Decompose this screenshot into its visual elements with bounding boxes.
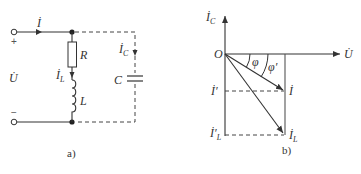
resistor-icon bbox=[68, 42, 77, 67]
label-current-capacitor: İC bbox=[118, 42, 129, 58]
angle-arc-phi bbox=[247, 54, 251, 67]
label-axis-x: U̇ bbox=[344, 47, 354, 61]
label-current-total: İ bbox=[36, 16, 42, 30]
caption-a: a) bbox=[67, 147, 76, 160]
label-current-inductor: İL bbox=[288, 128, 298, 144]
angle-arc-phi-prime bbox=[261, 54, 268, 77]
diagram-canvas: İ + − U̇ R İL L İC C a) İC U̇ O φ φ′ İ İ… bbox=[0, 0, 361, 174]
label-axis-y: İC bbox=[205, 10, 216, 26]
label-inductor: L bbox=[79, 94, 87, 108]
current-arrow-capacitor-icon bbox=[133, 50, 138, 56]
label-plus: + bbox=[11, 36, 17, 47]
circuit-figure-a: İ + − U̇ R İL L İC C a) bbox=[9, 16, 143, 160]
terminal-top bbox=[11, 29, 17, 35]
inductor-icon bbox=[72, 80, 76, 122]
label-current-total-prime: İ′ bbox=[210, 84, 218, 98]
label-current-inductor: İL bbox=[55, 68, 65, 84]
label-voltage: U̇ bbox=[9, 71, 19, 85]
label-origin: O bbox=[214, 47, 223, 61]
terminal-bottom bbox=[11, 119, 17, 125]
caption-b: b) bbox=[282, 144, 292, 157]
label-current-total: İ bbox=[288, 84, 294, 98]
current-arrow-inductor-icon bbox=[70, 72, 75, 78]
phasor-figure-b: İC U̇ O φ φ′ İ İ′ İL İ′L b) bbox=[205, 10, 354, 157]
label-capacitor: C bbox=[114, 73, 123, 87]
label-angle-phi-prime: φ′ bbox=[268, 60, 278, 74]
label-current-inductor-prime: İ′L bbox=[209, 126, 222, 142]
label-minus: − bbox=[11, 107, 17, 118]
label-angle-phi: φ bbox=[252, 55, 259, 69]
label-resistor: R bbox=[79, 48, 88, 62]
